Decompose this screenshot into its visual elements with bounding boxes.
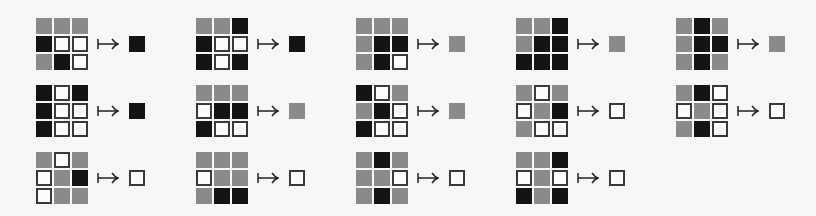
cell-black <box>36 85 52 101</box>
cell-black <box>232 18 248 34</box>
cell-gray <box>392 85 408 101</box>
maps-to-arrow-icon <box>97 37 119 51</box>
neighborhood-grid <box>516 152 568 204</box>
maps-to-arrow-icon <box>257 37 279 51</box>
rule-c3-r2 <box>356 85 465 137</box>
cell-black <box>214 103 230 119</box>
cell-black <box>232 54 248 70</box>
neighborhood-grid <box>356 18 408 70</box>
output-cell-gray <box>609 36 625 52</box>
cell-white <box>374 85 390 101</box>
cell-gray <box>54 188 70 204</box>
rule-c1-r2 <box>36 85 145 137</box>
rule-c2-r2 <box>196 85 305 137</box>
cell-white <box>196 103 212 119</box>
maps-to-arrow-icon <box>257 104 279 118</box>
cell-gray <box>374 18 390 34</box>
maps-to-arrow-icon <box>417 37 439 51</box>
cell-gray <box>356 170 372 186</box>
rule-c1-r1 <box>36 18 145 70</box>
cell-white <box>232 36 248 52</box>
cell-gray <box>54 170 70 186</box>
cell-gray <box>72 152 88 168</box>
cell-black <box>374 103 390 119</box>
cell-gray <box>214 85 230 101</box>
cell-white <box>196 170 212 186</box>
neighborhood-grid <box>196 152 248 204</box>
rule-c4-r2 <box>516 85 625 137</box>
cell-gray <box>36 18 52 34</box>
cell-white <box>232 121 248 137</box>
cell-white <box>54 103 70 119</box>
cell-black <box>356 121 372 137</box>
cell-white <box>516 170 532 186</box>
maps-to-arrow-icon <box>577 171 599 185</box>
output-cell-gray <box>449 103 465 119</box>
cell-white <box>676 103 692 119</box>
cell-gray <box>712 54 728 70</box>
cell-gray <box>534 152 550 168</box>
cell-gray <box>676 54 692 70</box>
cell-gray <box>712 18 728 34</box>
cell-gray <box>196 18 212 34</box>
cell-black <box>232 103 248 119</box>
rule-c3-r1 <box>356 18 465 70</box>
cell-gray <box>232 85 248 101</box>
neighborhood-grid <box>36 18 88 70</box>
cell-white <box>392 103 408 119</box>
maps-to-arrow-icon <box>417 171 439 185</box>
cell-black <box>36 121 52 137</box>
output-cell-gray <box>449 36 465 52</box>
cell-gray <box>356 188 372 204</box>
output-cell-gray <box>769 36 785 52</box>
maps-to-arrow-icon <box>257 171 279 185</box>
cell-black <box>712 36 728 52</box>
cell-gray <box>232 152 248 168</box>
cell-gray <box>534 103 550 119</box>
cell-white <box>54 85 70 101</box>
cell-white <box>534 85 550 101</box>
cell-white <box>392 170 408 186</box>
cell-white <box>712 85 728 101</box>
cell-black <box>72 85 88 101</box>
maps-to-arrow-icon <box>577 37 599 51</box>
cell-black <box>214 188 230 204</box>
output-cell-white <box>449 170 465 186</box>
cell-gray <box>356 18 372 34</box>
maps-to-arrow-icon <box>97 104 119 118</box>
cell-black <box>54 54 70 70</box>
rule-c5-r1 <box>676 18 785 70</box>
neighborhood-grid <box>36 85 88 137</box>
cell-white <box>392 54 408 70</box>
rule-c4-r1 <box>516 18 625 70</box>
cell-white <box>214 54 230 70</box>
cell-gray <box>214 18 230 34</box>
neighborhood-grid <box>196 18 248 70</box>
cell-white <box>712 121 728 137</box>
cell-white <box>54 36 70 52</box>
cell-black <box>516 188 532 204</box>
cell-gray <box>36 54 52 70</box>
cell-black <box>552 188 568 204</box>
cell-black <box>552 54 568 70</box>
rule-c1-r3 <box>36 152 145 204</box>
cell-gray <box>72 18 88 34</box>
cell-black <box>374 54 390 70</box>
cell-white <box>534 121 550 137</box>
output-cell-white <box>609 103 625 119</box>
cell-black <box>552 36 568 52</box>
cell-gray <box>516 152 532 168</box>
cell-white <box>214 36 230 52</box>
cell-gray <box>516 18 532 34</box>
cell-black <box>552 18 568 34</box>
rule-c2-r1 <box>196 18 305 70</box>
cell-gray <box>392 152 408 168</box>
output-cell-white <box>289 170 305 186</box>
cell-gray <box>694 103 710 119</box>
neighborhood-grid <box>516 18 568 70</box>
output-cell-white <box>609 170 625 186</box>
output-cell-black <box>289 36 305 52</box>
cell-gray <box>516 36 532 52</box>
output-cell-black <box>129 36 145 52</box>
cell-gray <box>196 85 212 101</box>
